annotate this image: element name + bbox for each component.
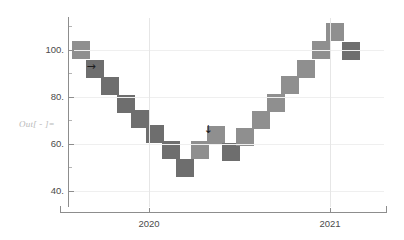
x-axis-line <box>60 212 387 213</box>
data-point-marker[interactable] <box>101 77 119 95</box>
plot-output-stage: Out[ - ]= →↓ 100.80.60.40.20202021 <box>0 0 404 240</box>
x-axis-left-cap <box>60 206 61 213</box>
data-point-marker[interactable] <box>281 76 299 94</box>
gridline-horizontal <box>69 50 384 51</box>
y-axis-minor-tick <box>69 167 72 168</box>
x-axis-tick-label: 2021 <box>310 218 350 229</box>
plot-area[interactable] <box>68 17 384 207</box>
right-arrow-annotation: → <box>86 61 95 72</box>
output-cell-label: Out[ - ]= <box>19 119 55 129</box>
y-axis-tick-label: 100. <box>34 44 64 55</box>
y-axis-tick-label: 80. <box>34 91 64 102</box>
data-point-marker[interactable] <box>342 42 360 60</box>
y-axis-minor-tick <box>69 73 72 74</box>
x-axis-tick-label: 2020 <box>129 218 169 229</box>
gridline-horizontal <box>69 144 384 145</box>
gridline-vertical <box>330 18 331 207</box>
data-point-marker[interactable] <box>326 23 344 41</box>
y-axis-tick <box>69 144 74 145</box>
gridline-horizontal <box>69 97 384 98</box>
data-point-marker[interactable] <box>252 111 270 129</box>
y-axis-tick-label: 40. <box>34 185 64 196</box>
x-axis-tick <box>330 208 331 213</box>
y-axis-tick <box>69 50 74 51</box>
y-axis-tick <box>69 191 74 192</box>
y-axis-tick <box>69 97 74 98</box>
gridline-vertical <box>149 18 150 207</box>
y-axis-minor-tick <box>69 26 72 27</box>
x-axis-tick <box>149 208 150 213</box>
data-point-marker[interactable] <box>176 159 194 177</box>
data-point-marker[interactable] <box>236 128 254 146</box>
x-axis-right-cap <box>386 206 387 213</box>
down-arrow-annotation: ↓ <box>204 124 213 135</box>
y-axis-tick-label: 60. <box>34 138 64 149</box>
data-point-marker[interactable] <box>297 60 315 78</box>
gridline-horizontal <box>69 191 384 192</box>
y-axis-line <box>68 17 69 207</box>
y-axis-minor-tick <box>69 120 72 121</box>
